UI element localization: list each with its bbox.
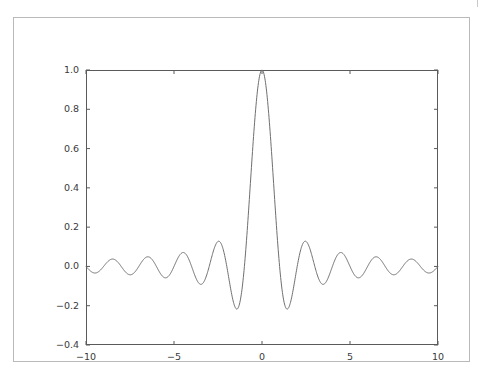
y-tick-label: 0.2	[19, 222, 79, 232]
y-tick-label: 0.6	[19, 144, 79, 154]
y-tick-label: 0.4	[19, 183, 79, 193]
y-tick-label: −0.4	[19, 340, 79, 350]
x-tick-label: −5	[167, 352, 181, 362]
figure-frame: −0.4−0.20.00.20.40.60.81.0 −10−50510	[13, 17, 470, 362]
axes-spines	[87, 71, 438, 345]
x-tick-label: 5	[347, 352, 353, 362]
y-tick-label: 0.8	[19, 105, 79, 115]
x-tick-label: −10	[76, 352, 96, 362]
y-tick-label: 0.0	[19, 262, 79, 272]
y-tick-label: 1.0	[19, 65, 79, 75]
tick-marks	[86, 70, 438, 345]
plot-axes-area[interactable]: −0.4−0.20.00.20.40.60.81.0 −10−50510	[86, 70, 438, 345]
y-tick-label: −0.2	[19, 301, 79, 311]
data-line-sinc	[86, 70, 438, 309]
x-tick-label: 10	[432, 352, 444, 362]
corner-artifact	[477, 0, 478, 7]
x-tick-label: 0	[259, 352, 265, 362]
figure-root: −0.4−0.20.00.20.40.60.81.0 −10−50510	[0, 0, 484, 380]
plot-svg	[86, 70, 438, 345]
